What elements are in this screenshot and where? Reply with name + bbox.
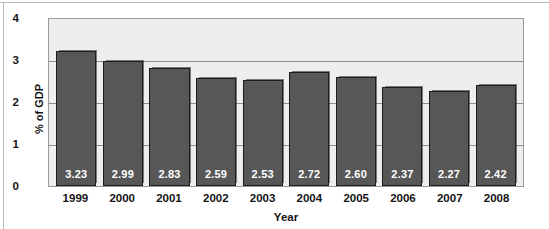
y-axis-tick-2: 2 — [0, 96, 19, 108]
bar-slot: 2.59 — [193, 19, 240, 186]
bar[interactable]: 2.53 — [243, 80, 283, 186]
bar[interactable]: 2.59 — [196, 78, 236, 186]
x-axis-tick-2002: 2002 — [192, 192, 239, 204]
x-axis-tick-2006: 2006 — [380, 192, 427, 204]
bar[interactable]: 2.72 — [289, 72, 329, 186]
figure-top-border — [0, 2, 549, 3]
bar-value-label: 2.99 — [104, 168, 142, 180]
bar[interactable]: 2.83 — [149, 68, 189, 186]
bar-chart-figure: 4 3 2 1 0 % of GDP 3.232.992.832.592.532… — [0, 0, 549, 229]
bar-value-label: 2.60 — [337, 168, 375, 180]
y-axis-tick-4: 4 — [0, 12, 19, 24]
x-axis-tick-2007: 2007 — [426, 192, 473, 204]
plot-area: 3.232.992.832.592.532.722.602.372.272.42 — [48, 18, 524, 187]
bar-value-label: 2.72 — [290, 168, 328, 180]
bar[interactable]: 2.99 — [103, 61, 143, 186]
bar-value-label: 3.23 — [57, 168, 95, 180]
bar[interactable]: 2.37 — [382, 87, 422, 186]
bar[interactable]: 2.60 — [336, 77, 376, 186]
bar-value-label: 2.27 — [430, 168, 468, 180]
x-axis-label: Year — [48, 211, 524, 223]
bar-slot: 3.23 — [53, 19, 100, 186]
bar-slot: 2.83 — [146, 19, 193, 186]
x-axis-tick-2003: 2003 — [239, 192, 286, 204]
bar-value-label: 2.42 — [477, 168, 515, 180]
y-axis-tick-1: 1 — [0, 138, 19, 150]
x-axis-tick-2000: 2000 — [99, 192, 146, 204]
bar-slot: 2.53 — [239, 19, 286, 186]
x-axis-ticks: 1999200020012002200320042005200620072008 — [48, 192, 524, 204]
bar[interactable]: 3.23 — [56, 51, 96, 186]
bar-slot: 2.27 — [426, 19, 473, 186]
bar-slot: 2.60 — [333, 19, 380, 186]
bar-slot: 2.99 — [100, 19, 147, 186]
bar-value-label: 2.83 — [150, 168, 188, 180]
x-axis-tick-2008: 2008 — [473, 192, 520, 204]
x-axis-tick-2005: 2005 — [333, 192, 380, 204]
bar-value-label: 2.37 — [383, 168, 421, 180]
bar-series: 3.232.992.832.592.532.722.602.372.272.42 — [49, 19, 523, 186]
x-axis-tick-2001: 2001 — [146, 192, 193, 204]
y-axis-label: % of GDP — [33, 64, 45, 154]
bar-slot: 2.37 — [379, 19, 426, 186]
y-axis-tick-0: 0 — [0, 180, 19, 192]
bar-value-label: 2.59 — [197, 168, 235, 180]
x-axis-tick-1999: 1999 — [52, 192, 99, 204]
bar-value-label: 2.53 — [244, 168, 282, 180]
bar-slot: 2.72 — [286, 19, 333, 186]
y-axis-tick-3: 3 — [0, 54, 19, 66]
bar[interactable]: 2.42 — [476, 85, 516, 186]
x-axis-tick-2004: 2004 — [286, 192, 333, 204]
bar[interactable]: 2.27 — [429, 91, 469, 186]
bar-slot: 2.42 — [472, 19, 519, 186]
figure-left-border — [3, 2, 4, 229]
